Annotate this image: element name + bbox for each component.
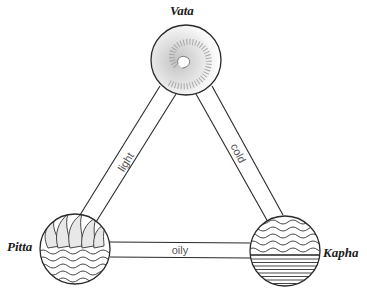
edge-pitta-kapha: oily (110, 242, 250, 258)
edge-label-oily: oily (172, 244, 189, 256)
node-kapha (248, 216, 328, 286)
node-label-pitta: Pitta (7, 239, 32, 255)
edge-vata-pitta: light (80, 86, 176, 222)
edge-vata-kapha: cold (196, 86, 283, 222)
dosha-triangle-diagram: light cold oily (0, 0, 367, 294)
node-label-kapha: Kapha (323, 245, 358, 261)
node-vata (151, 25, 221, 95)
node-pitta (38, 214, 118, 284)
node-label-vata: Vata (170, 3, 194, 19)
edge-label-cold: cold (228, 141, 248, 164)
